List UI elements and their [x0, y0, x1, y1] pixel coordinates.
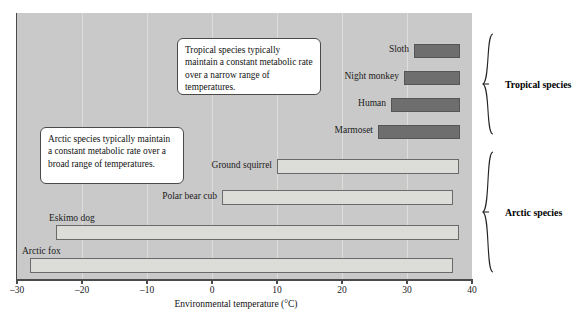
bar-label-marmoset: Marmoset	[277, 126, 373, 136]
bar-night-monkey	[404, 71, 460, 85]
x-tick-label-0: 0	[210, 285, 215, 295]
x-tick-minus10	[146, 279, 148, 284]
thermoneutral-zone-figure: Sloth Night monkey Human Marmoset Ground…	[0, 0, 576, 318]
bar-label-polar-bear-cub: Polar bear cub	[121, 192, 217, 202]
x-tick-label-minus10: –10	[140, 285, 154, 295]
bar-label-eskimo-dog: Eskimo dog	[49, 214, 95, 224]
bar-eskimo-dog	[56, 225, 459, 240]
bracket-label-tropical: Tropical species	[505, 79, 571, 90]
x-tick-label-30: 30	[402, 285, 412, 295]
x-axis-line	[16, 279, 473, 281]
x-tick-10	[276, 279, 278, 284]
x-tick-label-40: 40	[467, 285, 477, 295]
x-tick-label-20: 20	[337, 285, 347, 295]
x-axis-title: Environmental temperature (°C)	[0, 299, 472, 309]
x-tick-minus20	[81, 279, 83, 284]
x-tick-20	[341, 279, 343, 284]
bar-sloth	[414, 44, 460, 58]
bracket-group-arctic: Arctic species	[481, 150, 576, 274]
bar-label-arctic-fox: Arctic fox	[22, 247, 61, 257]
x-tick-0	[211, 279, 213, 284]
bar-human	[391, 98, 460, 112]
callout-tropical: Tropical species typically maintain a co…	[177, 38, 321, 95]
x-tick-label-10: 10	[272, 285, 282, 295]
bar-label-ground-squirrel: Ground squirrel	[176, 161, 272, 171]
callout-arctic: Arctic species typically maintain a cons…	[40, 127, 184, 184]
x-tick-30	[406, 279, 408, 284]
bracket-label-arctic: Arctic species	[505, 207, 562, 218]
bar-marmoset	[378, 125, 460, 139]
bar-polar-bear-cub	[222, 190, 453, 205]
bar-arctic-fox	[30, 258, 453, 273]
x-tick-label-minus30: –30	[10, 285, 24, 295]
bar-label-sloth: Sloth	[313, 45, 409, 55]
x-tick-minus30	[16, 279, 18, 284]
curly-brace-icon	[481, 32, 503, 136]
x-tick-40	[471, 279, 473, 284]
bar-label-human: Human	[290, 99, 386, 109]
bar-ground-squirrel	[277, 159, 459, 174]
x-tick-label-minus20: –20	[75, 285, 89, 295]
curly-brace-icon	[481, 150, 503, 274]
bracket-group-tropical: Tropical species	[481, 32, 576, 136]
